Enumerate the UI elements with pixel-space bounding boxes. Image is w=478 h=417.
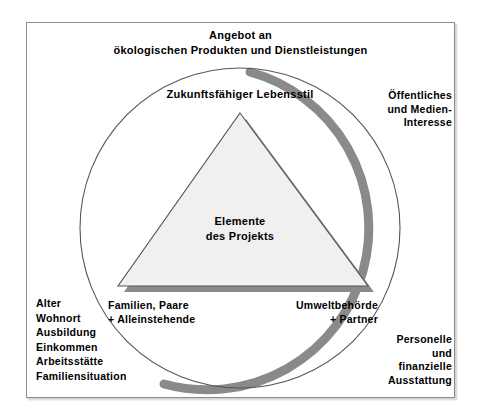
label-public-and-media-interest: Öffentliches und Medien- Interesse — [360, 89, 452, 130]
diagram-title: Angebot an ökologischen Produkten und Di… — [26, 28, 455, 58]
project-triangle — [118, 113, 368, 286]
diagram-canvas: Angebot an ökologischen Produkten und Di… — [0, 0, 478, 417]
label-project-elements: Elemente des Projekts — [170, 214, 310, 244]
label-demographic-attributes-list: Alter Wohnort Ausbildung Einkommen Arbei… — [36, 296, 166, 383]
label-environmental-authority-partners: Umweltbehörde + Partner — [268, 299, 378, 326]
label-personnel-and-financial-resources: Personelle und finanzielle Ausstattung — [355, 333, 452, 387]
label-sustainable-lifestyle: Zukunftsfähiger Lebensstil — [120, 88, 360, 102]
